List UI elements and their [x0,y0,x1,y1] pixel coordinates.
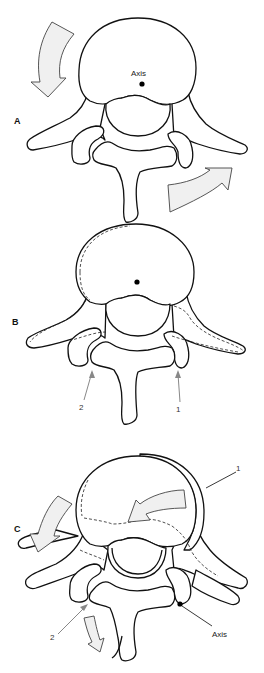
pointer-1 [178,374,180,402]
panel-a: Axis A [14,18,247,222]
panel-label-a: A [14,116,21,126]
axis-label: Axis [131,69,146,78]
panel-label-c: C [14,524,21,534]
panel-b: B 2 1 [12,224,245,424]
rotation-arrow-left [30,496,72,552]
pointer-2 [58,606,86,634]
rotation-arrow-spinous [84,616,104,652]
pointer-2-arrowhead [80,604,88,611]
pointer-1-label: 1 [176,405,181,414]
axis-label: Axis [212,630,227,639]
pointer-1 [206,472,236,488]
pointer-2-label: 2 [79,403,84,412]
vertebra-neutral [26,224,245,424]
rotation-arrow-down-left [31,22,74,97]
pointer-1-label: 1 [236,464,241,473]
rotation-arrow-up-right [168,168,232,212]
pointer-2-label: 2 [50,633,55,642]
panel-c: C 1 2 Axis [14,454,247,661]
panel-label-b: B [12,317,19,327]
pointer-2-arrowhead [89,370,95,378]
axis-point [134,279,139,284]
vertebra-rotation-diagram: Axis A B 2 1 [0,0,264,673]
axis-point [139,81,144,86]
axis-pointer [182,606,212,626]
pointer-1-arrowhead [175,370,181,378]
axis-point [177,601,182,606]
